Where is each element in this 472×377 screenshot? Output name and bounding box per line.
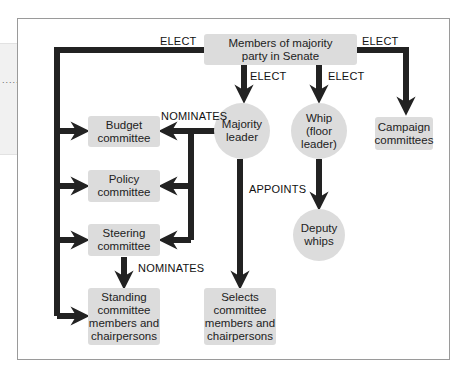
node-selects-committee: Selects committee members and chairperso… [204, 288, 276, 345]
label-elect-whip: ELECT [328, 70, 364, 82]
node-standing-committee: Standing committee members and chairpers… [88, 288, 160, 345]
node-policy-committee: Policy committee [88, 170, 160, 202]
label-nominates-leader: NOMINATES [161, 110, 227, 122]
label-nominates-steering: NOMINATES [138, 262, 204, 274]
label-appoints: APPOINTS [249, 183, 306, 195]
node-budget-committee: Budget committee [88, 116, 160, 147]
label-elect-left: ELECT [160, 35, 196, 47]
label-elect-leader: ELECT [250, 70, 286, 82]
node-whip: Whip (floor leader) [291, 103, 347, 159]
label-elect-right: ELECT [362, 35, 398, 47]
node-steering-committee: Steering committee [88, 224, 160, 256]
node-members-majority-party: Members of majority party in Senate [204, 34, 357, 65]
node-deputy-whips: Deputy whips [293, 209, 345, 261]
node-campaign-committees: Campaign committees [375, 117, 433, 150]
